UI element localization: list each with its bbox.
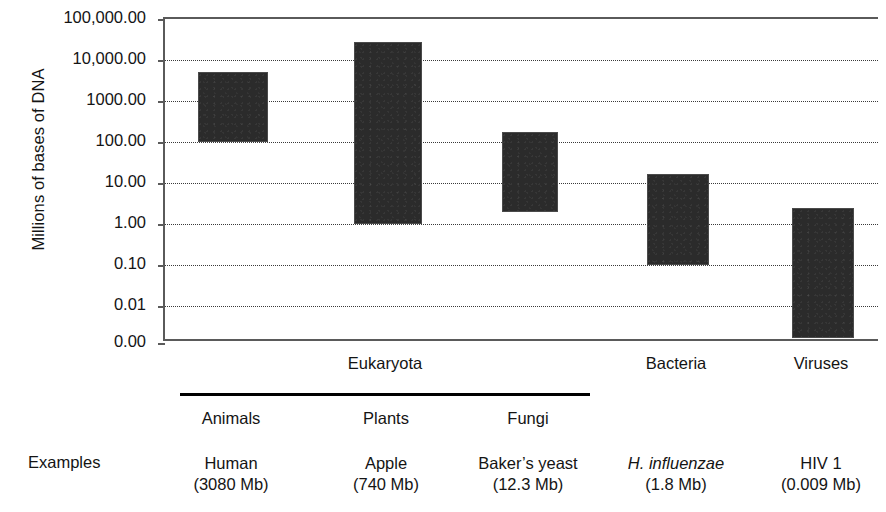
- example-genome-size: (740 Mb): [353, 474, 419, 495]
- y-axis-tick-label: 100,000.00: [63, 8, 146, 27]
- example-cell: Baker’s yeast(12.3 Mb): [478, 453, 577, 495]
- category-label-block: EukaryotaBacteriaViruses AnimalsPlantsFu…: [0, 341, 886, 512]
- y-axis-tick: [158, 142, 165, 144]
- y-axis-tick-label: 1.00: [114, 213, 146, 232]
- example-species: Apple: [353, 453, 419, 474]
- eukaryota-bracket-rule: [180, 393, 590, 396]
- y-axis-tick: [158, 19, 165, 21]
- example-species: H. influenzae: [628, 453, 724, 474]
- bar-viruses: [792, 208, 854, 337]
- y-axis-tick-label: 10.00: [105, 172, 146, 191]
- gridline: [165, 101, 878, 102]
- example-cell: Human(3080 Mb): [193, 453, 268, 495]
- bar-animals: [198, 72, 268, 142]
- y-axis-tick-labels: 100,000.0010,000.001000.00100.0010.001.0…: [0, 17, 156, 341]
- y-axis-tick-label: 1000.00: [86, 90, 146, 109]
- domain-label-bacteria: Bacteria: [646, 354, 707, 373]
- kingdom-label-plants: Plants: [363, 409, 409, 428]
- y-axis-tick: [158, 101, 165, 103]
- bar-plants: [354, 42, 422, 224]
- gridline: [165, 265, 878, 266]
- domain-label-viruses: Viruses: [794, 354, 849, 373]
- y-axis-tick-label: 10,000.00: [73, 49, 146, 68]
- example-cell: Apple(740 Mb): [353, 453, 419, 495]
- example-species: Human: [193, 453, 268, 474]
- y-axis-tick-label: 100.00: [96, 131, 146, 150]
- kingdom-label-fungi: Fungi: [507, 409, 548, 428]
- y-axis-tick-label: 0.01: [114, 295, 146, 314]
- plot-area: [163, 17, 878, 341]
- example-genome-size: (1.8 Mb): [628, 474, 724, 495]
- y-axis-tick: [158, 306, 165, 308]
- example-species: Baker’s yeast: [478, 453, 577, 474]
- example-cell: H. influenzae(1.8 Mb): [628, 453, 724, 495]
- gridline: [165, 306, 878, 307]
- examples-row-label: Examples: [28, 453, 100, 472]
- bar-fungi: [502, 132, 558, 212]
- kingdom-label-animals: Animals: [202, 409, 261, 428]
- gridline: [165, 60, 878, 61]
- y-axis-tick: [158, 60, 165, 62]
- genome-size-chart: Millions of bases of DNA 100,000.0010,00…: [0, 0, 886, 512]
- domain-label-eukaryota: Eukaryota: [348, 354, 422, 373]
- y-axis-tick: [158, 224, 165, 226]
- y-axis-tick-label: 0.10: [114, 254, 146, 273]
- example-cell: HIV 1(0.009 Mb): [781, 453, 861, 495]
- example-genome-size: (3080 Mb): [193, 474, 268, 495]
- gridline: [165, 224, 878, 225]
- y-axis-tick: [158, 183, 165, 185]
- example-species: HIV 1: [781, 453, 861, 474]
- example-genome-size: (12.3 Mb): [478, 474, 577, 495]
- y-axis-tick: [158, 265, 165, 267]
- bar-bacteria: [647, 174, 709, 265]
- example-genome-size: (0.009 Mb): [781, 474, 861, 495]
